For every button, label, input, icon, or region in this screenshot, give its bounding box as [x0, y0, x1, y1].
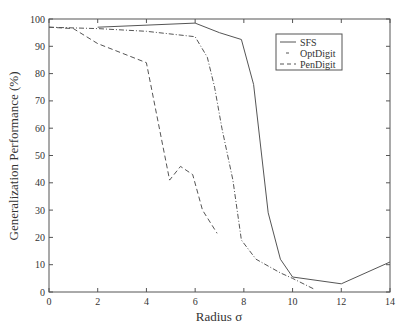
y-tick-label: 30: [35, 205, 45, 216]
y-tick-label: 100: [30, 14, 45, 25]
y-tick-label: 40: [35, 177, 45, 188]
x-tick-label: 4: [144, 296, 149, 307]
x-tick-label: 6: [193, 296, 198, 307]
x-tick-label: 14: [385, 296, 395, 307]
series-sfs: [98, 23, 390, 284]
y-tick-label: 90: [35, 41, 45, 52]
x-tick-label: 2: [95, 296, 100, 307]
line-chart: 024681012140102030405060708090100 SFSOpt…: [0, 0, 408, 333]
legend-label-pendigit: PenDigit: [300, 59, 336, 70]
series-optdigit: [49, 27, 315, 289]
y-axis-label: Generalization Performance (%): [6, 72, 21, 241]
legend-label-optdigit: OptDigit: [300, 48, 336, 59]
y-tick-label: 0: [40, 287, 45, 298]
x-axis-label: Radius σ: [196, 309, 242, 324]
x-tick-label: 0: [47, 296, 52, 307]
legend-label-sfs: SFS: [300, 37, 317, 48]
y-tick-label: 70: [35, 95, 45, 106]
x-tick-label: 8: [241, 296, 246, 307]
y-tick-label: 80: [35, 68, 45, 79]
x-tick-label: 12: [336, 296, 346, 307]
y-tick-label: 10: [35, 259, 45, 270]
y-tick-label: 60: [35, 123, 45, 134]
y-tick-label: 50: [35, 150, 45, 161]
x-tick-label: 10: [288, 296, 298, 307]
series-pendigit: [49, 27, 217, 233]
y-tick-label: 20: [35, 232, 45, 243]
legend: SFSOptDigitPenDigit: [276, 34, 342, 70]
